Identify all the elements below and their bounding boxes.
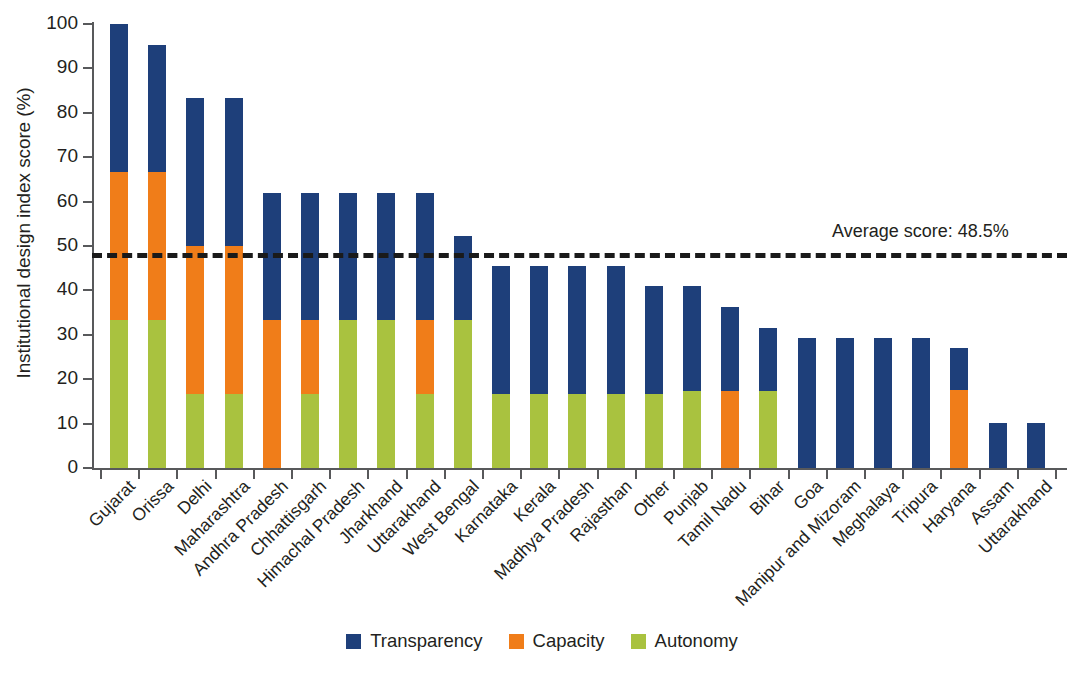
y-tick-label: 40 [32,278,78,300]
legend-item-capacity: Capacity [509,630,605,652]
x-axis-label: Delhi [201,476,216,491]
bar-segment-capacity [225,246,243,394]
y-tick-label: 70 [32,145,78,167]
bar-segment-autonomy [110,320,128,468]
bar-jharkhand [377,22,395,470]
x-axis-label: West Bengal [469,476,484,491]
y-tick [83,245,92,247]
average-score-label: Average score: 48.5% [832,221,1009,242]
bar-segment-capacity [301,320,319,394]
bar-segment-autonomy [759,391,777,468]
bar-segment-transparency [683,286,701,391]
x-axis-label: Rajasthan [622,476,637,491]
legend-label-autonomy: Autonomy [655,630,738,652]
bar-segment-transparency [225,98,243,246]
bar-segment-capacity [263,320,281,468]
bar-segment-transparency [912,338,930,468]
y-tick [83,467,92,469]
legend-swatch-transparency [346,634,361,649]
bar-rajasthan [607,22,625,470]
bar-segment-autonomy [645,394,663,468]
y-tick [83,201,92,203]
bar-segment-transparency [568,266,586,394]
legend-item-transparency: Transparency [346,630,482,652]
x-axis-label: Goa [813,476,828,491]
bar-gujarat [110,22,128,470]
bar-segment-autonomy [148,320,166,468]
bar-orissa [148,22,166,470]
y-tick-label: 60 [32,190,78,212]
bar-segment-transparency [989,423,1007,468]
bar-tamil-nadu [721,22,739,470]
bar-segment-transparency [798,338,816,468]
x-axis-label: Himachal Pradesh [354,476,369,491]
x-axis-label: Other [660,476,675,491]
bar-segment-transparency [1027,423,1045,468]
bar-tripura [912,22,930,470]
x-axis-label: Uttarakhand [431,476,446,491]
y-tick [83,334,92,336]
bar-haryana [950,22,968,470]
x-axis-label: Chhattisgarh [316,476,331,491]
legend-item-autonomy: Autonomy [631,630,738,652]
x-axis-label-text: Orissa [127,476,178,527]
x-axis-label: Andhra Pradesh [278,476,293,491]
y-tick [83,378,92,380]
bar-karnataka [492,22,510,470]
x-axis-label: Madhya Pradesh [583,476,598,491]
bar-goa [798,22,816,470]
plot-area: 0102030405060708090100 Average score: 48… [92,22,1067,470]
bar-segment-autonomy [530,394,548,468]
y-tick [83,423,92,425]
bar-kerala [530,22,548,470]
y-tick-label: 80 [32,101,78,123]
bar-segment-autonomy [683,391,701,468]
bar-segment-autonomy [339,320,357,468]
bar-segment-capacity [416,320,434,394]
bar-segment-capacity [721,391,739,468]
bar-segment-autonomy [186,394,204,468]
bar-segment-capacity [110,172,128,320]
x-axis-label: Jharkhand [392,476,407,491]
bar-segment-transparency [950,348,968,390]
x-axis-label: Tripura [927,476,942,491]
bar-segment-capacity [148,172,166,320]
bar-segment-autonomy [225,394,243,468]
x-axis-label: Tamil Nadu [736,476,751,491]
x-axis-label: Haryana [965,476,980,491]
bar-segment-capacity [950,390,968,468]
bar-segment-transparency [836,338,854,468]
bar-segment-capacity [186,246,204,394]
y-tick [83,67,92,69]
bar-segment-autonomy [416,394,434,468]
y-axis-line [92,22,94,470]
chart-figure: Institutional design index score (%) 010… [0,0,1084,681]
bar-punjab [683,22,701,470]
y-tick-label: 50 [32,234,78,256]
y-tick-label: 100 [32,12,78,34]
bar-andhra-pradesh [263,22,281,470]
y-tick-label: 20 [32,367,78,389]
legend-swatch-capacity [509,634,524,649]
bar-segment-transparency [148,45,166,172]
bar-segment-autonomy [301,394,319,468]
bar-west-bengal [454,22,472,470]
bar-maharashtra [225,22,243,470]
bar-segment-transparency [186,98,204,246]
bar-assam [989,22,1007,470]
x-axis-label: Meghalaya [889,476,904,491]
bar-chhattisgarh [301,22,319,470]
y-tick [83,112,92,114]
legend-label-capacity: Capacity [533,630,605,652]
bar-segment-transparency [492,266,510,394]
bar-segment-autonomy [454,320,472,468]
bar-himachal-pradesh [339,22,357,470]
y-tick-label: 0 [32,456,78,478]
x-axis-label-text: Bihar [746,476,790,520]
average-score-line [92,253,1067,258]
x-axis-label: Kerala [545,476,560,491]
legend-label-transparency: Transparency [370,630,482,652]
x-axis-label-text: Gujarat [84,476,139,531]
bar-segment-transparency [110,24,128,172]
bar-segment-transparency [607,266,625,394]
